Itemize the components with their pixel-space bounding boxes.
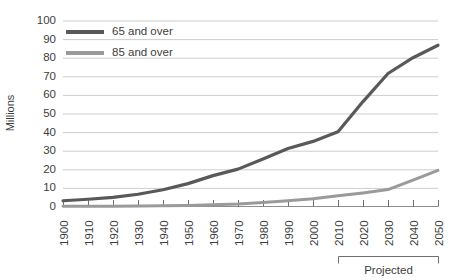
x-tick-label-1980: 1980 xyxy=(258,220,270,246)
x-tick-label-2050: 2050 xyxy=(433,220,445,246)
projected-label: Projected xyxy=(364,264,413,276)
data-series xyxy=(63,45,438,206)
series-line-65-and-over xyxy=(63,45,438,200)
x-tick-label-1920: 1920 xyxy=(108,220,120,246)
y-axis-tick-labels: 0102030405060708090100 xyxy=(37,14,56,212)
y-tick-label-100: 100 xyxy=(37,14,56,26)
x-tick-label-1910: 1910 xyxy=(83,220,95,246)
y-tick-label-80: 80 xyxy=(43,51,56,63)
chart-legend: 65 and over85 and over xyxy=(66,25,173,58)
y-tick-label-90: 90 xyxy=(43,33,56,45)
legend-label-0: 65 and over xyxy=(112,25,173,37)
y-tick-label-0: 0 xyxy=(50,200,56,212)
chart-canvas: 0102030405060708090100 Millions 19001910… xyxy=(0,0,463,280)
projected-bracket xyxy=(339,257,439,264)
x-tick-label-2040: 2040 xyxy=(408,220,420,246)
x-tick-label-2030: 2030 xyxy=(383,220,395,246)
x-tick-label-1970: 1970 xyxy=(233,220,245,246)
projected-annotation: Projected xyxy=(339,257,439,277)
x-tick-label-1950: 1950 xyxy=(183,220,195,246)
x-tick-label-2020: 2020 xyxy=(358,220,370,246)
y-tick-label-60: 60 xyxy=(43,88,56,100)
y-tick-label-20: 20 xyxy=(43,163,56,175)
y-axis-title: Millions xyxy=(4,94,16,131)
x-tick-label-1930: 1930 xyxy=(133,220,145,246)
x-axis-tick-labels: 1900191019201930194019501960197019801990… xyxy=(58,220,445,246)
legend-label-1: 85 and over xyxy=(112,46,173,58)
y-tick-label-40: 40 xyxy=(43,126,56,138)
x-tick-label-1940: 1940 xyxy=(158,220,170,246)
y-tick-label-70: 70 xyxy=(43,70,56,82)
x-tick-label-1900: 1900 xyxy=(58,220,70,246)
population-age-line-chart: 0102030405060708090100 Millions 19001910… xyxy=(0,0,463,280)
y-tick-label-30: 30 xyxy=(43,144,56,156)
x-tick-label-2010: 2010 xyxy=(333,220,345,246)
x-tick-label-1960: 1960 xyxy=(208,220,220,246)
y-tick-label-10: 10 xyxy=(43,181,56,193)
y-tick-label-50: 50 xyxy=(43,107,56,119)
x-tick-label-2000: 2000 xyxy=(308,220,320,246)
x-tick-label-1990: 1990 xyxy=(283,220,295,246)
